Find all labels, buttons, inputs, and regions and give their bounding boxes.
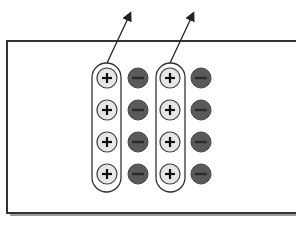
positive-charge-icon xyxy=(97,68,117,88)
positive-charge-icon xyxy=(97,164,117,184)
negative-charge-icon xyxy=(128,68,148,88)
positive-charge-icon xyxy=(97,100,117,120)
negative-charge-icon xyxy=(191,132,211,152)
negative-charge-icon xyxy=(191,100,211,120)
positive-charge-icon xyxy=(160,132,180,152)
positive-charge-icon xyxy=(160,68,180,88)
positive-charge-icon xyxy=(160,164,180,184)
negative-charge-icon xyxy=(128,164,148,184)
negative-charge-icon xyxy=(128,100,148,120)
region-border xyxy=(7,41,296,213)
negative-charge-icon xyxy=(191,164,211,184)
negative-charge-icon xyxy=(128,132,148,152)
negative-charge-icon xyxy=(191,68,211,88)
positive-charge-icon xyxy=(97,132,117,152)
positive-charge-icon xyxy=(160,100,180,120)
region-rectangle xyxy=(7,41,296,216)
charge-diagram xyxy=(0,0,296,225)
